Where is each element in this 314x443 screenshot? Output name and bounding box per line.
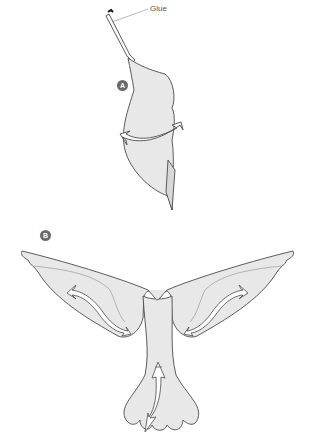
figure-a-body xyxy=(106,10,175,210)
glue-label: Glue xyxy=(150,4,167,13)
diagram-canvas xyxy=(0,0,314,443)
glue-callout xyxy=(112,9,148,22)
badge-b: B xyxy=(40,230,51,241)
badge-a: A xyxy=(117,80,128,91)
